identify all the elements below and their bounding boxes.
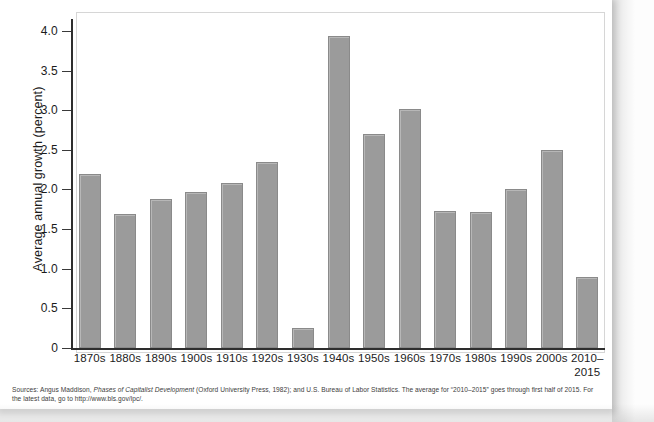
y-tick-label: 1.0 xyxy=(24,262,58,276)
source-prefix: Sources: Angus Maddison, xyxy=(12,386,94,393)
y-tick-label: 3.0 xyxy=(24,103,58,117)
bar-slot xyxy=(79,15,101,348)
x-tick-label-line1: 1950s xyxy=(358,352,390,364)
y-tick-label: 2.0 xyxy=(24,182,58,196)
x-tick-label-line1: 1940s xyxy=(323,352,355,364)
bar-slot xyxy=(328,15,350,348)
bar-slot xyxy=(221,15,243,348)
x-tick-label-line1: 2000s xyxy=(536,352,568,364)
x-tick-label-line1: 1930s xyxy=(287,352,319,364)
bar-slot xyxy=(434,15,456,348)
x-tick-label-line1: 1880s xyxy=(109,352,141,364)
bar[interactable] xyxy=(221,183,243,348)
source-note: Sources: Angus Maddison, Phases of Capit… xyxy=(12,385,597,403)
bar[interactable] xyxy=(470,212,492,348)
y-tick-label: 4.0 xyxy=(24,24,58,38)
y-tick-label: 1.5 xyxy=(24,222,58,236)
x-tick-label-line1: 1980s xyxy=(465,352,497,364)
bar[interactable] xyxy=(363,134,385,348)
bar-slot xyxy=(470,15,492,348)
bar-chart-figure: Average annual growth (percent) 00.51.01… xyxy=(0,0,612,422)
x-tick-label-line1: 1910s xyxy=(216,352,248,364)
y-tick-mark xyxy=(62,150,71,151)
bar[interactable] xyxy=(505,189,527,348)
x-tick-label-line1: 2010– xyxy=(571,352,603,364)
x-axis-line xyxy=(71,348,605,350)
bar[interactable] xyxy=(79,174,101,348)
bar-slot xyxy=(363,15,385,348)
y-tick-mark xyxy=(62,229,71,230)
bar-slot xyxy=(256,15,278,348)
x-tick-label-line1: 1960s xyxy=(394,352,426,364)
bar-slot xyxy=(292,15,314,348)
bar[interactable] xyxy=(399,109,421,348)
x-tick-label-line2: 2015 xyxy=(565,366,609,380)
bar[interactable] xyxy=(328,36,350,348)
bar-slot xyxy=(541,15,563,348)
y-tick-label: 0 xyxy=(24,341,58,355)
bar[interactable] xyxy=(185,192,207,348)
y-tick-label: 3.5 xyxy=(24,64,58,78)
y-tick-mark xyxy=(62,110,71,111)
bar[interactable] xyxy=(576,277,598,348)
x-tick-label: 2010–2015 xyxy=(565,352,609,379)
bar[interactable] xyxy=(256,162,278,348)
bar-slot xyxy=(185,15,207,348)
bar[interactable] xyxy=(292,328,314,348)
x-tick-label-line1: 1870s xyxy=(74,352,106,364)
y-tick-mark xyxy=(62,189,71,190)
page-edge-shadow xyxy=(612,0,654,422)
y-tick-mark xyxy=(62,71,71,72)
bar[interactable] xyxy=(434,211,456,348)
bar[interactable] xyxy=(541,150,563,348)
y-tick-label: 2.5 xyxy=(24,143,58,157)
x-tick-label-line1: 1900s xyxy=(180,352,212,364)
bar-slot xyxy=(114,15,136,348)
x-tick-label-line1: 1890s xyxy=(145,352,177,364)
source-italic-title: Phases of Capitalist Development xyxy=(94,386,195,393)
bar[interactable] xyxy=(150,199,172,348)
bar-slot xyxy=(150,15,172,348)
bar-slot xyxy=(576,15,598,348)
x-tick-label-line1: 1970s xyxy=(429,352,461,364)
bar-slot xyxy=(399,15,421,348)
y-tick-mark xyxy=(62,348,71,349)
x-tick-label-line1: 1920s xyxy=(252,352,284,364)
y-tick-mark xyxy=(62,269,71,270)
y-tick-mark xyxy=(62,31,71,32)
bar-slot xyxy=(505,15,527,348)
scanned-page: Average annual growth (percent) 00.51.01… xyxy=(0,0,654,422)
x-tick-label-line1: 1990s xyxy=(500,352,532,364)
y-tick-mark xyxy=(62,308,71,309)
bar[interactable] xyxy=(114,214,136,348)
bars-container xyxy=(72,15,605,348)
y-axis-tick-labels: 00.51.01.52.02.53.03.54.0 xyxy=(24,0,58,422)
y-tick-label: 0.5 xyxy=(24,301,58,315)
